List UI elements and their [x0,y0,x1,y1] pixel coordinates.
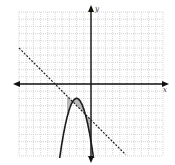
coordinate-graph: x y [0,0,175,165]
x-axis-left-arrow-icon [13,81,20,87]
y-axis-up-arrow-icon [88,5,94,12]
shaded-region [67,96,91,140]
x-axis-label: x [163,86,167,94]
